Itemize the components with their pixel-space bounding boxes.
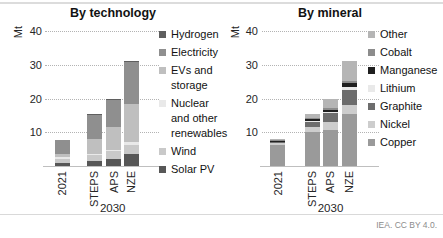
bar-steps-segment-nickel	[305, 127, 320, 132]
legend-item-hydrogen: Hydrogen	[159, 27, 223, 42]
legend-swatch-other	[368, 31, 375, 38]
legend-swatch-copper	[368, 139, 375, 146]
gridline-10	[262, 132, 379, 133]
y-tick-label-30: 30	[12, 59, 42, 72]
legend-label-nickel: Nickel	[380, 117, 410, 132]
gridline-40	[262, 31, 379, 32]
bar-nze-segment-other	[342, 61, 357, 80]
legend-swatch-manganese	[368, 67, 375, 74]
bar-nze-segment-nuclear-and-other-renewables	[124, 142, 139, 144]
bar-steps-segment-electricity	[87, 114, 102, 139]
bar-aps-segment-evs-and-storage	[106, 127, 121, 150]
legend-swatch-nickel	[368, 121, 375, 128]
bar-aps-segment-cobalt	[323, 108, 338, 110]
bar-steps-segment-cobalt	[305, 118, 320, 119]
legend-label-evs-and-storage: EVs and storage	[171, 63, 223, 93]
legend-item-lithium: Lithium	[368, 81, 440, 96]
x-tick-label-2021: 2021	[272, 171, 284, 231]
bar-aps-segment-other	[323, 99, 338, 108]
x-tick-label-nze: NZE	[343, 171, 355, 231]
legend-by-technology: HydrogenElectricityEVs and storageNuclea…	[159, 27, 223, 180]
bar-steps-segment-copper	[305, 132, 320, 166]
bar-nze-segment-manganese	[342, 83, 357, 86]
x-group-label-by-technology: 2030	[83, 202, 143, 214]
legend-item-copper: Copper	[368, 135, 440, 150]
legend-item-other: Other	[368, 27, 440, 42]
bar-nze-segment-wind	[124, 145, 139, 154]
legend-label-hydrogen: Hydrogen	[171, 27, 219, 42]
legend-swatch-wind	[159, 148, 166, 155]
x-tick-label-steps: STEPS	[306, 171, 318, 231]
bar-aps-segment-hydrogen	[106, 99, 121, 100]
bar-2021-segment-graphite	[270, 142, 285, 144]
bar-steps-segment-manganese	[305, 119, 320, 120]
bar-nze-segment-electricity	[124, 62, 139, 103]
x-tick-label-2021: 2021	[56, 171, 68, 231]
x-axis-line	[260, 166, 379, 167]
legend-label-manganese: Manganese	[380, 63, 438, 78]
bar-2021-segment-copper	[270, 145, 285, 166]
legend-by-mineral: OtherCobaltManganeseLithiumGraphiteNicke…	[368, 27, 440, 153]
gridline-40	[45, 31, 159, 32]
bar-aps-segment-solar-pv	[106, 159, 121, 166]
bar-nze-segment-lithium	[342, 87, 357, 90]
bar-aps-segment-nickel	[323, 122, 338, 129]
x-axis-line	[43, 166, 159, 167]
legend-label-copper: Copper	[380, 135, 416, 150]
bar-2021-segment-wind	[55, 159, 70, 163]
bar-steps-segment-lithium	[305, 121, 320, 122]
bar-aps-segment-graphite	[323, 113, 338, 122]
x-tick-label-aps: APS	[324, 171, 336, 231]
legend-item-cobalt: Cobalt	[368, 45, 440, 60]
gridline-10	[45, 132, 159, 133]
bar-steps-segment-evs-and-storage	[87, 139, 102, 154]
bar-nze-segment-solar-pv	[124, 154, 139, 166]
bar-2021-segment-nickel	[270, 143, 285, 145]
legend-label-other: Other	[380, 27, 408, 42]
legend-label-wind: Wind	[171, 144, 196, 159]
bar-steps-segment-wind	[87, 155, 102, 160]
legend-swatch-cobalt	[368, 49, 375, 56]
bar-nze-segment-hydrogen	[124, 61, 139, 62]
legend-label-graphite: Graphite	[380, 99, 422, 114]
legend-item-nickel: Nickel	[368, 117, 440, 132]
legend-label-electricity: Electricity	[171, 45, 218, 60]
bar-steps-segment-nuclear-and-other-renewables	[87, 154, 102, 156]
x-tick-label-steps: STEPS	[88, 171, 100, 231]
x-tick-label-nze: NZE	[125, 171, 137, 231]
bar-aps-segment-manganese	[323, 110, 338, 112]
y-tick-label-30: 30	[228, 59, 258, 72]
bar-2021-segment-other	[270, 139, 285, 140]
bar-2021-segment-nuclear-and-other-renewables	[55, 157, 70, 158]
legend-swatch-evs-and-storage	[159, 67, 166, 74]
bar-aps-segment-nuclear-and-other-renewables	[106, 150, 121, 152]
bar-2021-segment-evs-and-storage	[55, 154, 70, 157]
legend-label-nuclear-and-other-renewables: Nuclear and other renewables	[171, 96, 227, 141]
bar-steps-segment-other	[305, 114, 320, 118]
legend-swatch-graphite	[368, 103, 375, 110]
bar-nze-segment-copper	[342, 114, 357, 166]
legend-item-electricity: Electricity	[159, 45, 223, 60]
bar-nze-segment-cobalt	[342, 81, 357, 84]
legend-swatch-lithium	[368, 85, 375, 92]
bar-nze-segment-graphite	[342, 90, 357, 105]
legend-label-cobalt: Cobalt	[380, 45, 412, 60]
legend-item-manganese: Manganese	[368, 63, 440, 78]
y-tick-label-40: 40	[12, 25, 42, 38]
legend-swatch-hydrogen	[159, 31, 166, 38]
gridline-30	[262, 65, 379, 66]
x-group-label-by-mineral: 2030	[301, 202, 361, 214]
top-divider	[0, 2, 443, 4]
chart-title-by-technology: By technology	[33, 6, 193, 20]
legend-swatch-solar-pv	[159, 166, 166, 173]
attribution: IEA. CC BY 4.0.	[376, 220, 437, 230]
legend-label-lithium: Lithium	[380, 81, 415, 96]
bar-aps-segment-electricity	[106, 99, 121, 127]
gridline-30	[45, 65, 159, 66]
legend-item-solar-pv: Solar PV	[159, 162, 223, 177]
y-tick-label-20: 20	[12, 93, 42, 106]
bar-2021-segment-cobalt	[270, 140, 285, 141]
legend-item-wind: Wind	[159, 144, 223, 159]
y-tick-label-20: 20	[228, 93, 258, 106]
bar-2021-segment-solar-pv	[55, 163, 70, 166]
